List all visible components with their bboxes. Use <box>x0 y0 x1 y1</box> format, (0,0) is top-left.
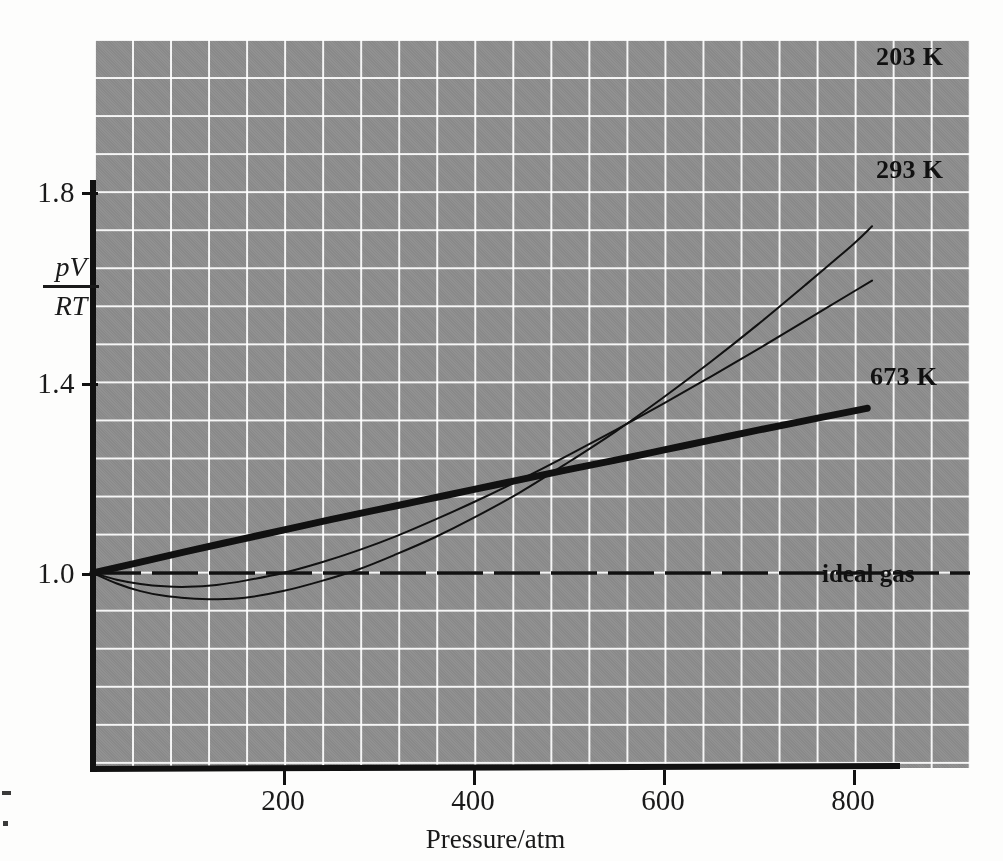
series-line-673k <box>93 408 867 573</box>
series-label-203k: 203 K <box>876 44 943 70</box>
series-label-ideal-gas: ideal gas <box>822 561 914 586</box>
scan-artifact-mark <box>2 791 11 795</box>
curves-layer <box>0 0 1003 861</box>
series-label-673k: 673 K <box>870 364 937 390</box>
chart-figure: 1.8 1.4 1.0 200 400 600 800 Pressure/atm… <box>0 0 1003 861</box>
scan-artifact-mark <box>3 821 8 826</box>
series-label-293k: 293 K <box>876 157 943 183</box>
